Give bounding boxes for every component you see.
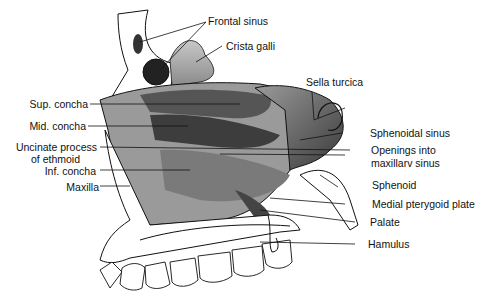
crista-galli bbox=[170, 41, 214, 86]
label-crista-galli: Crista galli bbox=[226, 40, 275, 52]
label-maxilla: Maxilla bbox=[66, 181, 99, 193]
label-hamulus: Hamulus bbox=[368, 238, 409, 250]
label-medial-pterygoid-plate: Medial pterygoid plate bbox=[372, 198, 475, 210]
label-inf-concha: Inf. concha bbox=[45, 165, 96, 177]
label-sup-concha: Sup. concha bbox=[30, 98, 88, 110]
label-sphenoidal-sinus: Sphenoidal sinus bbox=[370, 127, 450, 139]
label-sphenoid: Sphenoid bbox=[372, 179, 416, 191]
label-mid-concha: Mid. concha bbox=[29, 120, 86, 132]
label-frontal-sinus: Frontal sinus bbox=[208, 15, 268, 27]
label-sella-turcica: Sella turcica bbox=[306, 76, 363, 88]
label-uncinate-process: Uncinate process bbox=[16, 141, 97, 153]
label-palate: Palate bbox=[370, 216, 400, 228]
label-openings-maxillary: Openings into bbox=[371, 144, 436, 156]
label-openings-maxillary-2: maxillarv sinus bbox=[371, 157, 440, 169]
label-uncinate-process-2: of ethmoid bbox=[31, 153, 80, 165]
